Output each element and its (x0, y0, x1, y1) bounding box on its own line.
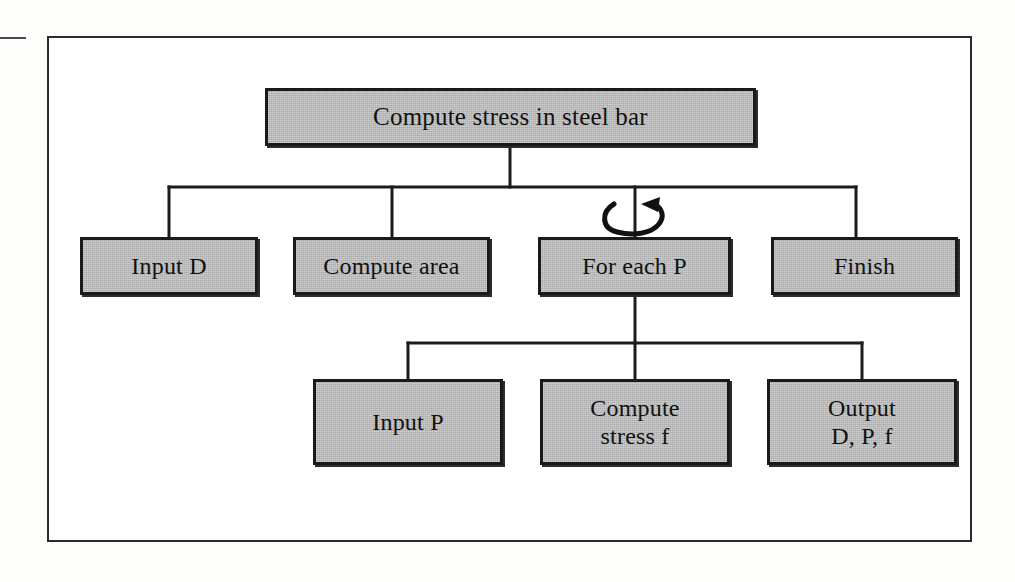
node-label: Input P (366, 408, 449, 436)
node-finish[interactable]: Finish (771, 237, 958, 295)
node-for-each-p[interactable]: For each P (538, 237, 731, 295)
node-label: Compute stress f (584, 394, 685, 451)
node-label-line-2: D, P, f (831, 423, 892, 449)
node-label: Compute area (317, 252, 465, 280)
node-compute-stress-f[interactable]: Compute stress f (540, 379, 730, 465)
node-label: For each P (576, 252, 693, 280)
node-label-line-1: Compute (590, 395, 679, 421)
page-edge-tick-mark (0, 37, 26, 39)
node-label-line-1: Output (828, 395, 896, 421)
node-input-d[interactable]: Input D (80, 237, 258, 295)
node-label: Output D, P, f (822, 394, 902, 451)
node-label-line-2: stress f (601, 423, 670, 449)
node-compute-area[interactable]: Compute area (293, 237, 490, 295)
node-label: Finish (828, 252, 901, 280)
node-input-p[interactable]: Input P (313, 379, 503, 465)
node-output-d-p-f[interactable]: Output D, P, f (767, 379, 957, 465)
node-label: Input D (125, 252, 212, 280)
node-label: Compute stress in steel bar (367, 102, 654, 132)
node-compute-stress-in-steel-bar[interactable]: Compute stress in steel bar (265, 88, 756, 146)
figure-page: Compute stress in steel bar Input D Comp… (0, 0, 1015, 582)
